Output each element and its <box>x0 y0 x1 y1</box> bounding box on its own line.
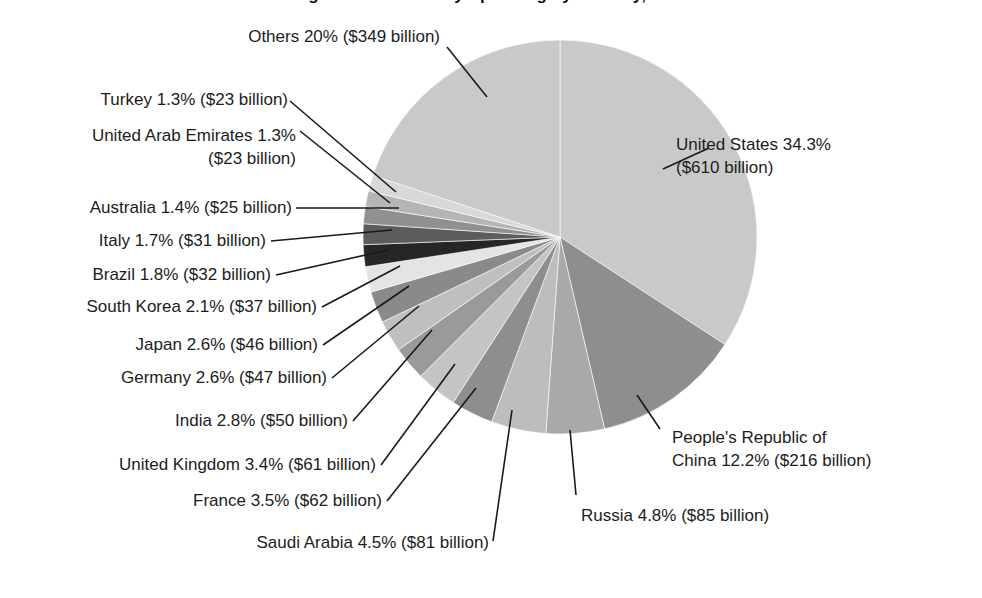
label-united-states-line2: ($610 billion) <box>676 156 831 179</box>
label-china: People's Republic of China 12.2% ($216 b… <box>672 426 871 472</box>
label-united-states: United States 34.3% ($610 billion) <box>676 133 831 179</box>
label-germany: Germany 2.6% ($47 billion) <box>0 366 327 389</box>
label-australia: Australia 1.4% ($25 billion) <box>0 196 292 219</box>
label-japan: Japan 2.6% ($46 billion) <box>0 333 318 356</box>
label-turkey-line1: Turkey 1.3% ($23 billion) <box>101 90 288 109</box>
label-others: Others 20% ($349 billion) <box>0 25 440 48</box>
label-france: France 3.5% ($62 billion) <box>0 489 382 512</box>
label-italy: Italy 1.7% ($31 billion) <box>0 229 266 252</box>
label-france-line1: France 3.5% ($62 billion) <box>193 491 382 510</box>
label-brazil-line1: Brazil 1.8% ($32 billion) <box>92 265 271 284</box>
label-united-arab-emirates: United Arab Emirates 1.3% ($23 billion) <box>0 124 296 170</box>
pie-slice-group <box>363 40 757 434</box>
label-russia-line1: Russia 4.8% ($85 billion) <box>581 506 769 525</box>
label-turkey: Turkey 1.3% ($23 billion) <box>0 88 288 111</box>
label-saudi-arabia-line1: Saudi Arabia 4.5% ($81 billion) <box>257 533 489 552</box>
leader-line-france <box>387 388 476 501</box>
label-others-line1: Others 20% ($349 billion) <box>248 27 440 46</box>
label-south-korea: South Korea 2.1% ($37 billion) <box>0 295 317 318</box>
label-uk-line1: United Kingdom 3.4% ($61 billion) <box>119 455 376 474</box>
label-united-states-line1: United States 34.3% <box>676 135 831 154</box>
leader-line-russia <box>570 430 576 495</box>
leader-line-uk <box>381 364 455 465</box>
label-united-kingdom: United Kingdom 3.4% ($61 billion) <box>0 453 376 476</box>
chart-canvas: Figure World Military Spending by Countr… <box>0 0 982 598</box>
label-russia: Russia 4.8% ($85 billion) <box>581 504 769 527</box>
label-saudi-arabia: Saudi Arabia 4.5% ($81 billion) <box>0 531 489 554</box>
label-uae-line1: United Arab Emirates 1.3% <box>92 126 296 145</box>
label-australia-line1: Australia 1.4% ($25 billion) <box>90 198 292 217</box>
label-brazil: Brazil 1.8% ($32 billion) <box>0 263 271 286</box>
label-japan-line1: Japan 2.6% ($46 billion) <box>136 335 318 354</box>
label-south-korea-line1: South Korea 2.1% ($37 billion) <box>86 297 317 316</box>
label-germany-line1: Germany 2.6% ($47 billion) <box>121 368 327 387</box>
label-italy-line1: Italy 1.7% ($31 billion) <box>99 231 266 250</box>
label-india-line1: India 2.8% ($50 billion) <box>175 411 348 430</box>
leader-line-saudi-arabia <box>493 410 512 541</box>
label-china-line1: People's Republic of <box>672 428 826 447</box>
label-china-line2: China 12.2% ($216 billion) <box>672 449 871 472</box>
label-india: India 2.8% ($50 billion) <box>0 409 348 432</box>
leader-line-turkey <box>290 101 396 192</box>
label-uae-line2: ($23 billion) <box>0 147 296 170</box>
